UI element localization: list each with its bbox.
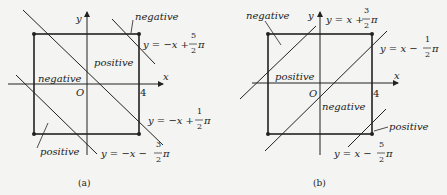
svg-text:2: 2 [364,21,369,30]
svg-text:3: 3 [364,6,369,15]
svg-text:y = −x +: y = −x + [142,39,189,50]
corner-dot [266,132,270,136]
x-tick-label: 4 [373,88,379,99]
corner-dot [370,132,374,136]
corner-dot [137,32,141,36]
y-axis-label: y [307,10,314,21]
panel-b: x y O 4 negative positive negative posit… [240,6,439,188]
x-axis-label: x [394,70,400,81]
corner-dot [32,132,36,136]
leader-line [37,123,48,148]
region-label-positive: positive [40,146,80,157]
origin-label: O [76,87,84,98]
svg-text:π: π [162,148,170,159]
region-label-positive: positive [94,57,134,68]
leader-line [131,20,133,33]
panel-caption: (b) [313,178,326,188]
corner-dot [266,32,270,36]
svg-text:y = x −: y = x − [379,43,418,54]
leader-line [374,127,388,131]
region-label-positive: positive [275,71,315,82]
x-tick-label: 4 [140,87,146,98]
corner-dot [32,32,36,36]
svg-text:5: 5 [379,140,384,149]
x-axis-label: x [163,71,169,82]
svg-text:1: 1 [425,35,430,44]
svg-text:π: π [385,148,393,159]
svg-text:1: 1 [197,107,202,116]
svg-text:5: 5 [191,31,196,40]
panel-caption: (a) [78,178,90,188]
svg-text:2: 2 [156,155,161,164]
equation-label: y = −x + 1 2 π [147,107,211,131]
svg-text:2: 2 [197,122,202,131]
corner-dot [370,32,374,36]
svg-text:π: π [370,14,378,25]
equation-label: y = x + 3 2 π [325,6,378,30]
equation-label: y = x − 5 2 π [333,140,393,164]
panel-a: x y O 4 negative positive negative posit… [8,10,211,188]
svg-text:π: π [197,39,205,50]
corner-dot [137,132,141,136]
origin-label: O [309,88,317,99]
equation-label: y = −x + 5 2 π [142,31,205,55]
diagram-canvas: x y O 4 negative positive negative posit… [0,0,447,195]
svg-text:2: 2 [379,155,384,164]
equation-label: y = x − 1 2 π [379,35,439,59]
svg-text:y = −x +: y = −x + [147,115,194,126]
region-label-negative: negative [246,10,290,21]
svg-text:y = x +: y = x + [325,14,364,25]
region-label-negative: negative [322,101,366,112]
svg-text:π: π [431,43,439,54]
svg-text:y = x −: y = x − [333,148,372,159]
y-axis-label: y [75,13,82,24]
line-x-plus-three-half-pi [240,26,316,99]
region-label-positive: positive [389,121,429,132]
svg-text:2: 2 [425,50,430,59]
region-label-negative: negative [135,11,179,22]
region-label-negative: negative [38,73,82,84]
line-x-minus-half-pi [265,31,387,151]
svg-text:y = −x −: y = −x − [100,148,147,159]
svg-text:π: π [203,115,211,126]
line-minus-x-minus-three-half-pi [16,75,97,154]
equation-label: y = −x − 3 2 π [100,140,170,164]
svg-text:2: 2 [191,46,196,55]
svg-text:3: 3 [156,140,161,149]
